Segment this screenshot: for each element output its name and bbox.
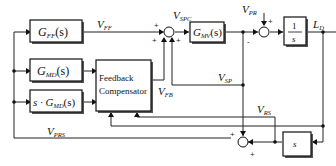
- label-ld: LD: [312, 18, 324, 31]
- label-vspc: VSPC: [173, 9, 192, 22]
- block-feedback-compensator: Feedback Compensator: [96, 60, 153, 113]
- arrow-sum1-left: [159, 29, 164, 35]
- junction-ld-feedback: [321, 124, 325, 128]
- svg-text:Feedback: Feedback: [99, 73, 134, 83]
- arrow-sum1-vsp: [169, 37, 175, 42]
- svg-text:Compensator: Compensator: [99, 86, 147, 96]
- sign-sum1-bottom-left: +: [152, 36, 157, 45]
- arrow-sum2-top: [261, 21, 267, 26]
- vfb-wire: [153, 40, 164, 80]
- sign-sum1-left: +: [154, 21, 159, 30]
- summing-junction-spc: [164, 27, 174, 37]
- sign-sum2-left: -: [247, 37, 250, 46]
- label-vfb: VFB: [158, 85, 173, 98]
- block-integrator: 1 s: [284, 17, 308, 47]
- svg-text:s: s: [293, 139, 297, 149]
- junction-vsp: [241, 83, 245, 87]
- junction-gmv-out: [241, 30, 245, 34]
- sign-sum2-top: +: [268, 17, 273, 26]
- arrow-sum3-top: [240, 131, 246, 136]
- label-vpr: VPR: [242, 3, 257, 16]
- control-block-diagram: GFF(s) GMD(s) s · GMD(s) Feedback Compen…: [0, 0, 336, 166]
- label-vsp: VSP: [218, 71, 232, 84]
- junction-vrs: [273, 140, 277, 144]
- arrow-integrator-in: [278, 29, 283, 35]
- sign-sum3-bottom: +: [250, 150, 255, 159]
- ld-compensator-wire: [111, 113, 323, 126]
- arrow-sum1-vfb: [161, 37, 167, 42]
- summing-junction-prs: [238, 137, 248, 147]
- label-vprs: VPRS: [47, 125, 66, 138]
- block-derivative: s: [283, 132, 313, 158]
- sign-sum1-bottom-right: +: [176, 36, 181, 45]
- svg-text:1: 1: [292, 21, 297, 31]
- arrow-gmv-in: [184, 29, 189, 35]
- block-gmd: GMD(s): [30, 59, 84, 83]
- svg-text:s: s: [292, 34, 296, 44]
- label-vff: VFF: [97, 18, 113, 31]
- block-gmv: GMV(s): [190, 22, 226, 44]
- label-vrs: VRS: [257, 103, 272, 116]
- block-s-gmd: s · GMD(s): [30, 90, 84, 114]
- block-gff: GFF(s): [30, 20, 84, 44]
- sign-sum3-top: +: [230, 130, 235, 139]
- arrow-sum2-left: [253, 29, 258, 35]
- arrow-sum3-right: [248, 139, 253, 145]
- junction-left-sgmd: [12, 100, 16, 104]
- summing-junction-pr: [259, 27, 269, 37]
- junction-left-gmd: [12, 69, 16, 73]
